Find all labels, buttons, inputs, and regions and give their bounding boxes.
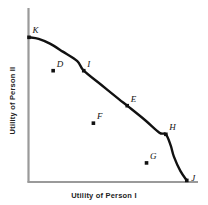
x-axis-title: Utility of Person I	[0, 191, 208, 200]
data-point-g: G	[145, 151, 157, 165]
chart-plot-area: KDIEFHGJ	[0, 0, 208, 205]
data-point-e: E	[125, 94, 136, 108]
data-point-f: F	[92, 111, 103, 125]
data-point-i: I	[82, 59, 91, 73]
utility-possibility-frontier-chart: KDIEFHGJ Utility of Person I Utility of …	[0, 0, 208, 205]
data-point-d: D	[51, 59, 63, 73]
point-label-i: I	[86, 59, 91, 69]
point-marker-i	[82, 69, 86, 73]
point-marker-d	[51, 69, 55, 73]
y-axis-title: Utility of Person II	[8, 36, 17, 166]
frontier-curve	[29, 37, 187, 180]
point-label-h: H	[168, 122, 176, 132]
point-label-k: K	[32, 25, 40, 35]
data-points-group: KDIEFHGJ	[27, 25, 196, 183]
point-marker-k	[27, 36, 31, 40]
point-label-d: D	[56, 59, 64, 69]
point-marker-e	[125, 104, 129, 108]
point-label-e: E	[130, 94, 137, 104]
point-marker-h	[164, 133, 168, 137]
point-label-f: F	[96, 111, 103, 121]
point-label-g: G	[150, 151, 157, 161]
point-marker-g	[145, 161, 149, 165]
point-marker-f	[92, 121, 96, 125]
data-point-h: H	[164, 122, 176, 136]
point-marker-j	[185, 179, 189, 183]
data-point-j: J	[185, 173, 196, 183]
